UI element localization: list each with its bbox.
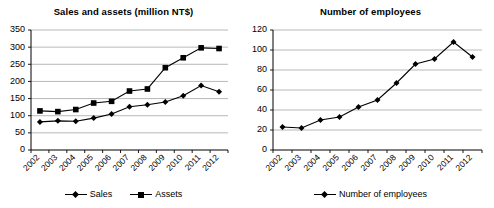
y-tick-label: 0 (262, 144, 267, 154)
chart-panel-employees: Number of employees 020406080100120 2002… (247, 0, 494, 208)
series-line-assets (40, 48, 219, 112)
x-axis-ticks-left: 2002200320042005200620072008200920102011… (21, 150, 228, 173)
y-tick-label: 250 (10, 59, 25, 69)
y-tick-label: 150 (10, 93, 25, 103)
x-tick-label: 2010 (415, 152, 436, 173)
data-series-left (37, 45, 222, 125)
y-tick-label: 350 (10, 24, 25, 34)
data-point-number-of-employees-2004 (318, 117, 324, 123)
legend-label: Assets (155, 189, 182, 200)
y-tick-label: 80 (257, 64, 267, 74)
data-point-assets-2012 (216, 46, 222, 52)
figure-two-line-charts: Sales and assets (million NT$) 050100150… (0, 0, 494, 208)
x-tick-label: 2007 (358, 152, 379, 173)
legend-marker (72, 190, 79, 197)
legend-square-marker-icon (130, 190, 152, 200)
data-point-sales-2004 (73, 118, 79, 124)
x-tick-label: 2006 (339, 152, 360, 173)
x-tick-label: 2009 (396, 152, 417, 173)
data-point-assets-2011 (198, 45, 204, 51)
y-tick-label: 100 (252, 44, 267, 54)
data-point-assets-2006 (109, 99, 115, 105)
y-tick-label: 0 (20, 144, 25, 154)
y-tick-label: 50 (15, 127, 25, 137)
data-point-sales-2009 (162, 99, 168, 105)
x-tick-label: 2012 (453, 152, 474, 173)
x-tick-label: 2003 (39, 152, 60, 173)
x-tick-label: 2008 (128, 152, 149, 173)
x-tick-label: 2010 (164, 152, 185, 173)
data-point-sales-2011 (198, 83, 204, 89)
data-point-assets-2003 (55, 109, 61, 115)
legend-sales-assets: SalesAssets (0, 189, 247, 200)
data-point-assets-2005 (91, 100, 97, 106)
data-point-assets-2008 (145, 86, 151, 92)
data-point-sales-2010 (180, 93, 186, 99)
x-tick-label: 2012 (200, 152, 221, 173)
legend-entry-assets[interactable]: Assets (130, 189, 182, 200)
x-tick-label: 2009 (146, 152, 167, 173)
x-tick-label: 2002 (263, 152, 284, 173)
legend-employees: Number of employees (247, 189, 494, 200)
plot-area-sales-assets: 050100150200250300350 200220032004200520… (0, 0, 247, 208)
chart-panel-sales-assets: Sales and assets (million NT$) 050100150… (0, 0, 247, 208)
y-tick-label: 100 (10, 110, 25, 120)
x-tick-label: 2011 (183, 152, 203, 172)
data-point-sales-2007 (127, 104, 133, 110)
y-tick-label: 20 (257, 124, 267, 134)
x-tick-label: 2008 (377, 152, 398, 173)
y-tick-label: 60 (257, 84, 267, 94)
x-axis-ticks-right: 2002200320042005200620072008200920102011… (263, 150, 482, 173)
x-tick-label: 2004 (301, 152, 322, 173)
data-point-assets-2007 (127, 88, 133, 94)
y-tick-label: 300 (10, 42, 25, 52)
legend-diamond-marker-icon (314, 190, 336, 200)
x-tick-label: 2003 (282, 152, 303, 173)
data-point-sales-2002 (37, 119, 43, 125)
data-point-sales-2012 (216, 89, 222, 95)
y-tick-label: 120 (252, 24, 267, 34)
data-point-number-of-employees-2002 (280, 124, 286, 130)
legend-marker (321, 190, 328, 197)
legend-entry-sales[interactable]: Sales (65, 189, 113, 200)
y-axis-ticks-right: 020406080100120 (252, 24, 273, 154)
data-point-number-of-employees-2006 (356, 104, 362, 110)
legend-entry-number-of-employees[interactable]: Number of employees (314, 189, 427, 200)
data-point-assets-2009 (163, 65, 169, 71)
x-tick-label: 2007 (110, 152, 131, 173)
legend-label: Sales (90, 189, 113, 200)
y-tick-label: 40 (257, 104, 267, 114)
x-tick-label: 2004 (57, 152, 78, 173)
x-tick-label: 2002 (21, 152, 42, 173)
data-point-sales-2003 (55, 118, 61, 124)
data-point-number-of-employees-2005 (337, 114, 343, 120)
series-line-number-of-employees (283, 42, 473, 128)
legend-label: Number of employees (339, 189, 427, 200)
data-point-sales-2008 (144, 102, 150, 108)
x-tick-label: 2005 (320, 152, 341, 173)
x-tick-label: 2011 (435, 152, 455, 172)
x-tick-label: 2005 (75, 152, 96, 173)
data-point-assets-2002 (37, 108, 43, 114)
legend-marker (138, 192, 144, 198)
legend-diamond-marker-icon (65, 190, 87, 200)
data-point-assets-2004 (73, 107, 79, 113)
y-axis-ticks-left: 050100150200250300350 (10, 24, 31, 154)
data-point-assets-2010 (180, 55, 186, 61)
plot-area-employees: 020406080100120 200220032004200520062007… (247, 0, 494, 208)
x-tick-label: 2006 (93, 152, 114, 173)
data-series-right (280, 39, 476, 131)
y-tick-label: 200 (10, 76, 25, 86)
